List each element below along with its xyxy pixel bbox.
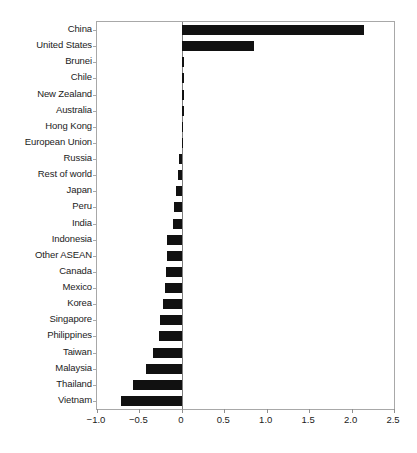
category-label: Peru (0, 201, 92, 211)
x-axis-tick-label: 2.5 (386, 414, 399, 425)
bar-chart: ChinaUnited StatesBruneiChileNew Zealand… (0, 0, 417, 453)
bar (159, 331, 182, 341)
category-label: Korea (0, 298, 92, 308)
bar (182, 138, 183, 148)
x-axis-tick-label: 1.0 (259, 414, 272, 425)
x-axis-tick (267, 409, 268, 413)
category-label: Australia (0, 105, 92, 115)
category-label: Mexico (0, 282, 92, 292)
bar (182, 73, 185, 83)
category-tick (93, 78, 97, 79)
bar (146, 364, 182, 374)
category-label: Singapore (0, 314, 92, 324)
plot-inner (97, 22, 394, 409)
category-label: Thailand (0, 379, 92, 389)
bar (176, 186, 182, 196)
category-label: Chile (0, 72, 92, 82)
bar (165, 283, 182, 293)
x-axis-tick-label: −0.5 (129, 414, 148, 425)
x-axis-tick (139, 409, 140, 413)
x-axis-tick-label: 2.0 (344, 414, 357, 425)
x-axis-tick (352, 409, 353, 413)
category-label: European Union (0, 137, 92, 147)
category-tick (93, 95, 97, 96)
category-tick (93, 401, 97, 402)
category-tick (93, 369, 97, 370)
category-tick (93, 224, 97, 225)
category-label: United States (0, 40, 92, 50)
category-tick (93, 30, 97, 31)
bar (153, 348, 182, 358)
category-tick (93, 207, 97, 208)
bar (182, 25, 364, 35)
category-tick (93, 288, 97, 289)
x-axis-tick (309, 409, 310, 413)
category-label: Brunei (0, 56, 92, 66)
x-axis-tick (97, 409, 98, 413)
plot-area (96, 21, 395, 410)
category-tick (93, 320, 97, 321)
category-tick (93, 272, 97, 273)
category-label: Japan (0, 185, 92, 195)
bar (167, 251, 181, 261)
bar (182, 57, 185, 67)
bar (160, 315, 182, 325)
category-label: Philippines (0, 330, 92, 340)
category-tick (93, 336, 97, 337)
category-label: Indonesia (0, 234, 92, 244)
x-axis-tick (224, 409, 225, 413)
category-label: Canada (0, 266, 92, 276)
category-tick (93, 111, 97, 112)
category-label: Rest of world (0, 169, 92, 179)
category-tick (93, 353, 97, 354)
bar (182, 90, 184, 100)
x-axis-tick-label: 1.5 (302, 414, 315, 425)
category-tick (93, 159, 97, 160)
category-label: Hong Kong (0, 121, 92, 131)
bar (182, 122, 183, 132)
bar (182, 106, 184, 116)
bar (167, 235, 181, 245)
x-axis-tick-label: −1.0 (87, 414, 106, 425)
bar (163, 299, 182, 309)
category-tick (93, 191, 97, 192)
category-label: New Zealand (0, 89, 92, 99)
category-label: China (0, 24, 92, 34)
bar (166, 267, 182, 277)
bar (174, 202, 182, 212)
category-label: Other ASEAN (0, 250, 92, 260)
category-label: India (0, 218, 92, 228)
category-label: Vietnam (0, 395, 92, 405)
bar (121, 396, 182, 406)
category-tick (93, 256, 97, 257)
bar (182, 41, 254, 51)
category-axis: ChinaUnited StatesBruneiChileNew Zealand… (0, 21, 92, 410)
bar (178, 170, 181, 180)
category-label: Taiwan (0, 347, 92, 357)
category-label: Russia (0, 153, 92, 163)
category-tick (93, 62, 97, 63)
category-tick (93, 175, 97, 176)
category-tick (93, 143, 97, 144)
x-axis-tick-label: 0 (178, 414, 183, 425)
category-tick (93, 240, 97, 241)
category-tick (93, 46, 97, 47)
x-axis-tick (394, 409, 395, 413)
bar (173, 219, 181, 229)
category-label: Malaysia (0, 363, 92, 373)
x-axis-tick (182, 409, 183, 413)
category-tick (93, 385, 97, 386)
bar (133, 380, 182, 390)
x-axis-tick-label: 0.5 (217, 414, 230, 425)
category-tick (93, 127, 97, 128)
bar (179, 154, 182, 164)
category-tick (93, 304, 97, 305)
